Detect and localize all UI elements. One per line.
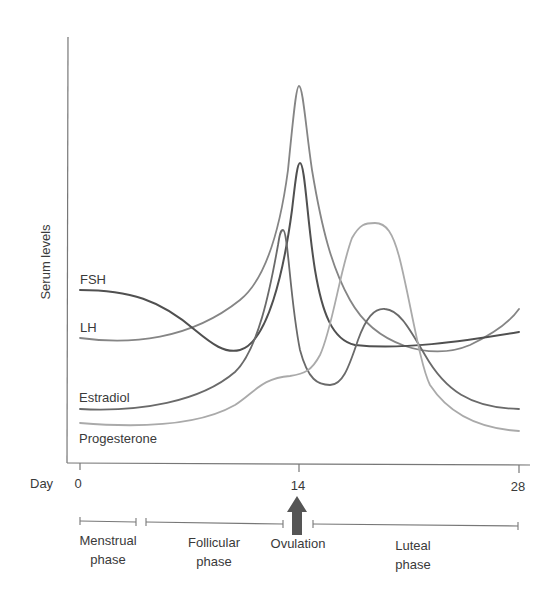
estradiol-curve	[80, 230, 519, 410]
fsh-label: FSH	[80, 272, 106, 287]
ovulation-arrow-icon	[287, 496, 307, 535]
follicular-label-1: Follicular	[188, 535, 241, 550]
menstrual-bracket	[80, 517, 136, 526]
menstrual-label-2: phase	[90, 552, 125, 567]
y-axis	[67, 37, 68, 463]
fsh-curve	[80, 163, 519, 351]
luteal-label-1: Luteal	[395, 538, 431, 553]
menstrual-label-1: Menstrual	[79, 533, 136, 548]
lh-curve	[80, 86, 519, 351]
y-axis-label: Serum levels	[38, 224, 53, 300]
estradiol-label: Estradiol	[79, 390, 130, 405]
luteal-label-2: phase	[395, 557, 430, 572]
day-label: Day	[30, 476, 54, 491]
tick-label-28: 28	[511, 479, 525, 494]
hormone-chart: Serum levels FSH LH Estradiol Progestero…	[0, 0, 557, 604]
progesterone-curve	[80, 223, 519, 431]
tick-label-0: 0	[74, 476, 81, 491]
progesterone-label: Progesterone	[79, 431, 157, 446]
luteal-bracket	[313, 520, 518, 530]
follicular-bracket	[146, 518, 283, 528]
lh-label: LH	[80, 320, 97, 335]
tick-label-14: 14	[291, 478, 305, 493]
ovulation-label: Ovulation	[271, 536, 326, 551]
follicular-label-2: phase	[196, 554, 231, 569]
